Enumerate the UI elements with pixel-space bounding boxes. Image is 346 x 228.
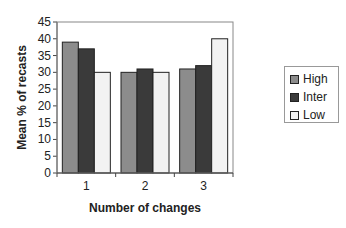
bar-low-3 [212,39,228,173]
y-tick-label: 35 [38,49,52,63]
x-tick-label: 2 [142,179,149,193]
bar-inter-2 [137,69,153,173]
legend-item-low: Low [290,107,338,123]
legend-swatch-high [290,75,299,84]
y-tick-label: 25 [38,82,52,96]
bar-inter-3 [196,66,212,173]
y-tick-label: 15 [38,116,52,130]
x-axis-ticks: 123 [57,173,233,193]
y-tick-label: 20 [38,99,52,113]
y-tick-label: 5 [44,149,51,163]
bar-high-1 [62,42,78,173]
x-tick-label: 3 [200,179,207,193]
bar-groups [62,39,227,173]
y-tick-label: 0 [44,166,51,180]
legend-item-high: High [290,71,338,87]
y-tick-label: 10 [38,132,52,146]
legend-swatch-low [290,111,299,120]
y-tick-label: 40 [38,32,52,46]
x-tick-label: 1 [83,179,90,193]
chart-legend: High Inter Low [284,66,339,123]
y-tick-label: 45 [38,15,52,29]
bar-inter-1 [78,49,94,173]
legend-label-inter: Inter [303,90,327,104]
bar-high-2 [121,72,137,173]
legend-label-low: Low [303,108,325,122]
legend-label-high: High [303,72,328,86]
bar-low-1 [94,72,110,173]
y-axis-ticks: 051015202530354045 [38,15,57,180]
y-axis-label: Mean % of recasts [15,45,29,150]
legend-swatch-inter [290,93,299,102]
bar-low-2 [153,72,169,173]
y-tick-label: 30 [38,65,52,79]
legend-item-inter: Inter [290,89,338,105]
x-axis-label: Number of changes [89,201,201,215]
bar-high-3 [180,69,196,173]
